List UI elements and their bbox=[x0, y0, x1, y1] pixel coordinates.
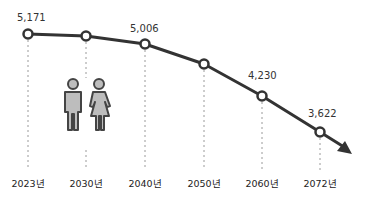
point-2050 bbox=[200, 60, 209, 69]
population-chart: 5,171 5,006 4,230 3,622 2023년 2030년 2040… bbox=[0, 0, 367, 200]
x-label-2060: 2060년 bbox=[245, 178, 278, 189]
x-label-2030: 2030년 bbox=[69, 178, 102, 189]
female-icon bbox=[90, 79, 110, 130]
x-label-2072: 2072년 bbox=[303, 178, 336, 189]
value-label-2060: 4,230 bbox=[248, 70, 277, 81]
point-2040 bbox=[141, 40, 150, 49]
x-label-2040: 2040년 bbox=[128, 178, 161, 189]
x-label-2023: 2023년 bbox=[11, 178, 44, 189]
point-2023 bbox=[24, 30, 33, 39]
point-2030 bbox=[82, 32, 91, 41]
value-label-2023: 5,171 bbox=[17, 12, 46, 23]
point-2072 bbox=[316, 128, 325, 137]
male-icon bbox=[65, 79, 81, 130]
x-label-2050: 2050년 bbox=[187, 178, 220, 189]
value-label-2072: 3,622 bbox=[308, 108, 337, 119]
value-label-2040: 5,006 bbox=[130, 23, 159, 34]
point-2060 bbox=[258, 92, 267, 101]
